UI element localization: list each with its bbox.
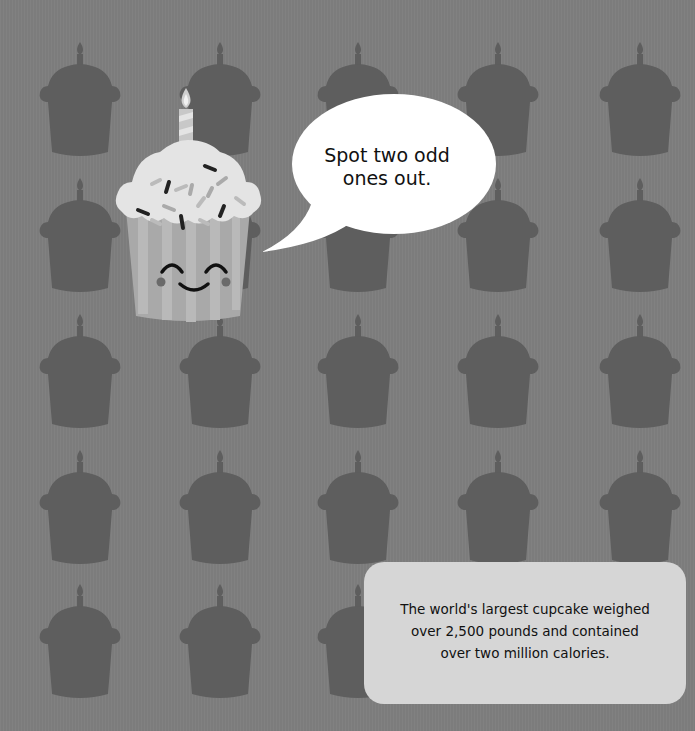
cupcake-silhouette[interactable] [38,448,122,568]
fact-line-2: over 2,500 pounds and contained [378,620,672,642]
cupcake-silhouette[interactable] [598,448,682,568]
cupcake-silhouette-icon [598,176,682,296]
cupcake-silhouette-icon [598,40,682,160]
fact-text: The world's largest cupcake weighed over… [378,598,672,664]
fact-line-1: The world's largest cupcake weighed [378,598,672,620]
cupcake-silhouette[interactable] [316,448,400,568]
cupcake-silhouette[interactable] [598,40,682,160]
cupcake-silhouette[interactable] [178,312,262,432]
speech-line-2: ones out. [292,167,482,190]
fact-box: The world's largest cupcake weighed over… [364,562,686,704]
speech-line-1: Spot two odd [292,144,482,167]
cupcake-silhouette[interactable] [178,582,262,702]
cupcake-silhouette-icon [178,582,262,702]
cupcake-silhouette-icon [456,448,540,568]
cupcake-silhouette-icon [316,312,400,432]
cupcake-silhouette-icon [316,448,400,568]
cupcake-silhouette-icon [38,312,122,432]
cupcake-silhouette-icon [38,582,122,702]
cupcake-silhouette[interactable] [598,312,682,432]
cupcake-character [108,82,268,327]
cupcake-silhouette[interactable] [456,312,540,432]
cupcake-silhouette[interactable] [316,312,400,432]
cupcake-silhouette-icon [38,448,122,568]
fact-line-3: over two million calories. [378,642,672,664]
puzzle-page: Spot two odd ones out. The world's large… [0,0,695,731]
cupcake-silhouette-icon [178,312,262,432]
cupcake-character-icon [108,82,268,327]
cupcake-silhouette-icon [598,448,682,568]
cupcake-silhouette[interactable] [38,312,122,432]
speech-bubble: Spot two odd ones out. [262,92,498,260]
cupcake-silhouette[interactable] [178,448,262,568]
cupcake-silhouette-icon [456,312,540,432]
speech-bubble-text: Spot two odd ones out. [292,144,482,190]
cupcake-silhouette[interactable] [38,582,122,702]
cupcake-silhouette-icon [598,312,682,432]
cupcake-silhouette[interactable] [456,448,540,568]
cupcake-silhouette-icon [178,448,262,568]
cupcake-silhouette[interactable] [598,176,682,296]
